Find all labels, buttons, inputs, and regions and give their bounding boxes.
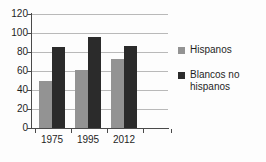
x-axis-tick-mark [107,129,108,133]
bar [124,46,137,128]
y-axis-tick-label: 100 [11,28,28,38]
y-axis-tick-mark [27,90,31,91]
legend-item[interactable]: Hispanos [178,44,264,56]
y-axis-tick-mark [27,14,31,15]
x-axis-tick-labels: 197519952012 [31,134,168,148]
y-axis-tick-mark [27,128,31,129]
y-axis-tick-label: 120 [11,9,28,19]
legend-swatch-icon [178,72,185,79]
y-axis-tick-mark [27,52,31,53]
legend-label: Blancos no hispanos [190,69,256,93]
y-axis-tick-mark [27,71,31,72]
x-axis-tick-mark [171,129,172,133]
legend-label: Hispanos [190,44,232,56]
y-axis-tick-mark [27,109,31,110]
x-axis-line [31,128,169,129]
x-axis-tick-mark [35,129,36,133]
y-axis-tick-labels: 020406080100120 [2,8,28,134]
x-axis-tick-mark [143,129,144,133]
x-axis-tick-label: 1975 [38,134,66,145]
bar [39,81,52,129]
bar [111,59,124,128]
y-axis-tick-mark [27,33,31,34]
bar [52,47,65,128]
bar [75,70,88,128]
x-axis-tick-label: 2012 [110,134,138,145]
x-axis-tick-label: 1995 [74,134,102,145]
chart-legend: HispanosBlancos no hispanos [178,44,264,106]
bar [88,37,101,128]
bar-chart: 020406080100120 197519952012 HispanosBla… [0,0,266,162]
legend-item[interactable]: Blancos no hispanos [178,69,264,93]
x-axis-tick-mark [71,129,72,133]
legend-swatch-icon [178,47,185,54]
bars-layer [31,14,168,128]
